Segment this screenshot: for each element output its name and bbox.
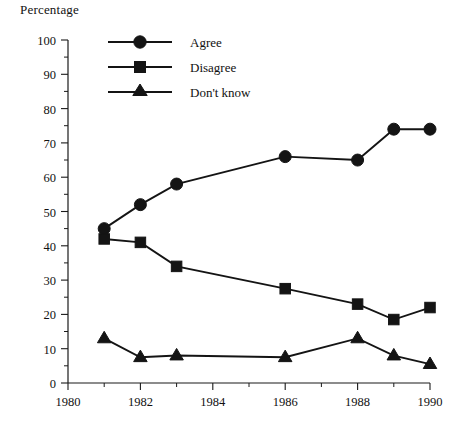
triangle-marker-icon	[133, 84, 147, 96]
x-tick-label-1990: 1990	[418, 395, 443, 409]
y-tick-label-90: 90	[44, 68, 57, 82]
square-marker-icon	[135, 62, 146, 73]
triangle-marker	[351, 331, 365, 343]
legend-label-agree: Agree	[190, 35, 222, 50]
series-agree	[98, 123, 436, 234]
square-marker	[352, 299, 363, 310]
y-axis-tick-labels: 100 90 80 70 60 50 40 30 20 10 0	[37, 34, 56, 391]
circle-marker	[279, 151, 291, 163]
y-tick-label-40: 40	[44, 240, 57, 254]
circle-marker	[98, 223, 110, 235]
y-tick-label-0: 0	[50, 377, 56, 391]
x-axis-tick-labels: 1980 1982 1984 1986 1988 1990	[56, 395, 443, 409]
x-tick-label-1980: 1980	[56, 395, 81, 409]
x-tick-label-1988: 1988	[345, 395, 370, 409]
square-marker	[280, 283, 291, 294]
series-line	[104, 338, 430, 364]
square-marker	[171, 261, 182, 272]
chart-legend: Agree Disagree Don't know	[108, 35, 251, 100]
y-tick-label-50: 50	[44, 206, 57, 220]
circle-marker	[352, 154, 364, 166]
square-marker	[389, 314, 400, 325]
square-marker	[99, 234, 110, 245]
circle-marker	[171, 178, 183, 190]
y-tick-label-20: 20	[44, 308, 57, 322]
series-disagree	[99, 234, 435, 325]
y-tick-label-10: 10	[44, 343, 57, 357]
circle-marker	[388, 123, 400, 135]
legend-label-dont-know: Don't know	[190, 85, 251, 100]
series-don-t-know	[97, 331, 436, 368]
triangle-marker	[170, 348, 184, 360]
square-marker	[135, 237, 146, 248]
y-tick-label-70: 70	[44, 137, 57, 151]
circle-marker	[134, 199, 146, 211]
y-tick-label-30: 30	[44, 274, 57, 288]
triangle-marker	[97, 331, 111, 343]
series-layer	[97, 123, 436, 368]
line-chart: Percentage	[0, 0, 453, 429]
series-line	[104, 129, 430, 228]
chart-plot-area: 100 90 80 70 60 50 40 30 20 10 0	[0, 0, 453, 429]
legend-label-disagree: Disagree	[190, 60, 236, 75]
y-tick-label-100: 100	[37, 34, 56, 48]
legend-item-agree[interactable]: Agree	[108, 35, 222, 50]
series-line	[104, 239, 430, 320]
circle-marker	[424, 123, 436, 135]
legend-item-disagree[interactable]: Disagree	[108, 60, 236, 75]
y-tick-label-60: 60	[44, 171, 57, 185]
x-tick-label-1984: 1984	[200, 395, 226, 409]
circle-marker-icon	[134, 36, 146, 48]
x-tick-label-1982: 1982	[128, 395, 153, 409]
triangle-marker	[134, 350, 148, 362]
legend-item-dont-know[interactable]: Don't know	[108, 84, 251, 100]
x-tick-label-1986: 1986	[273, 395, 298, 409]
square-marker	[425, 302, 436, 313]
y-tick-label-80: 80	[44, 103, 57, 117]
